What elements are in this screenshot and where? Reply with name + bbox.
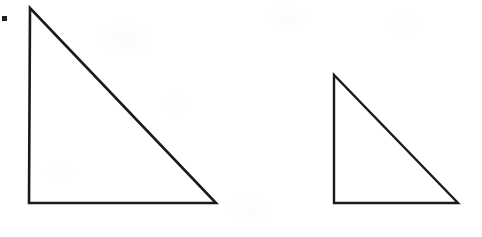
triangles-drawing <box>0 0 482 237</box>
corner-square-mark <box>2 16 7 21</box>
figure-canvas <box>0 0 482 237</box>
figure-background <box>0 0 482 237</box>
